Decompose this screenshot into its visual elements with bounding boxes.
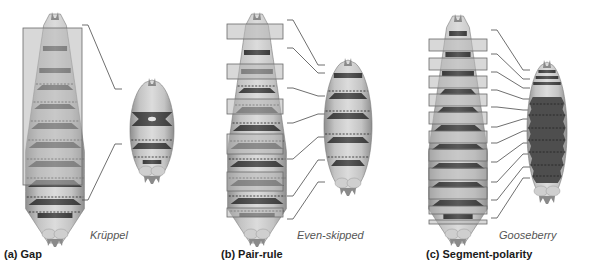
expression-stripe (29, 199, 82, 205)
tail-lobe (151, 166, 165, 176)
expression-stripe (331, 160, 365, 166)
stripe-gap (148, 117, 156, 121)
expression-stripe (327, 137, 369, 143)
expression-stripe (143, 160, 162, 164)
expression-domain-box (227, 208, 283, 217)
expression-stripe (238, 88, 275, 93)
leader-line (491, 30, 530, 70)
expression-stripe (442, 71, 474, 76)
expression-domain-box (429, 76, 487, 88)
expression-stripe (434, 125, 482, 131)
expression-domain-box (429, 220, 487, 224)
tail-lobe (347, 178, 361, 188)
expression-stripe (432, 200, 484, 206)
tail-spines-icon (47, 239, 63, 247)
expression-stripe (449, 31, 467, 36)
leader-line (491, 119, 530, 127)
expression-stripe (233, 125, 281, 131)
leader-line (491, 54, 530, 79)
expression-stripe (231, 198, 284, 204)
panel-label-b: (b) Pair-rule (221, 248, 283, 260)
tail-spines-icon (450, 239, 466, 247)
leader-line (287, 160, 325, 196)
panel-label-a: (a) Gap (4, 248, 42, 260)
early-embryo (227, 12, 286, 247)
leader-line (82, 144, 122, 200)
embryo-body (324, 60, 372, 192)
panel-a (23, 12, 174, 247)
expression-domain-box (429, 187, 487, 199)
early-embryo (23, 12, 84, 247)
gene-name-b: Even-skipped (297, 229, 364, 241)
leader-line (491, 107, 530, 110)
tail-spines-icon (539, 196, 555, 204)
expression-domain-box (23, 28, 82, 185)
tail-lobe (54, 229, 68, 239)
expression-stripe (536, 76, 559, 79)
panel-b (227, 12, 372, 247)
leader-line (287, 114, 325, 123)
panel-c (429, 14, 567, 247)
expression-domain-box (429, 149, 487, 161)
expression-stripe (445, 52, 470, 57)
leader-line (287, 48, 325, 73)
expression-stripe (327, 113, 370, 119)
tail-spines-icon (340, 188, 356, 196)
gene-name-a: Krüppel (90, 229, 128, 241)
expression-domain-box (429, 206, 487, 214)
late-embryo (527, 60, 567, 204)
leader-line (287, 137, 325, 159)
expression-domain-box (429, 58, 487, 70)
expression-domain-box (227, 99, 283, 114)
leader-line (491, 72, 530, 88)
leader-line (287, 20, 325, 65)
embryo-body (130, 80, 174, 180)
expression-stripe (533, 82, 561, 85)
expression-domain-box (429, 94, 487, 106)
leader-line (491, 178, 530, 218)
expression-stripe (334, 73, 362, 78)
expression-stripe (244, 50, 270, 55)
expression-domain-box (429, 131, 487, 143)
leader-line (491, 167, 530, 200)
expression-stripe (230, 161, 284, 167)
late-embryo (324, 58, 372, 196)
leader-line (287, 182, 325, 219)
expression-domain-box (429, 112, 487, 124)
leader-line (491, 143, 530, 162)
gene-name-c: Gooseberry (499, 229, 556, 241)
tail-spines-icon (144, 176, 160, 184)
expression-domain-box (227, 134, 283, 154)
expression-domain-box (429, 168, 487, 180)
expression-domain-box (429, 39, 487, 51)
late-embryo (130, 78, 174, 184)
tail-lobe (457, 229, 471, 239)
leader-line (491, 90, 530, 99)
expression-stripe (443, 214, 472, 219)
tail-spines-icon (249, 239, 265, 247)
leader-line (491, 131, 530, 143)
expression-stripe (538, 70, 555, 73)
expression-stripe (329, 93, 367, 99)
tail-lobe (256, 229, 270, 239)
leader-line (287, 88, 325, 96)
tail-lobe (546, 186, 560, 196)
panel-label-c: (c) Segment-polarity (426, 248, 532, 260)
expression-domain-box (227, 24, 283, 39)
leader-line (82, 25, 122, 89)
early-embryo (429, 14, 488, 247)
expression-domain-box (227, 64, 283, 79)
expression-stripe (132, 143, 172, 149)
expression-domain-box (227, 172, 283, 191)
expression-stripe (38, 213, 73, 218)
